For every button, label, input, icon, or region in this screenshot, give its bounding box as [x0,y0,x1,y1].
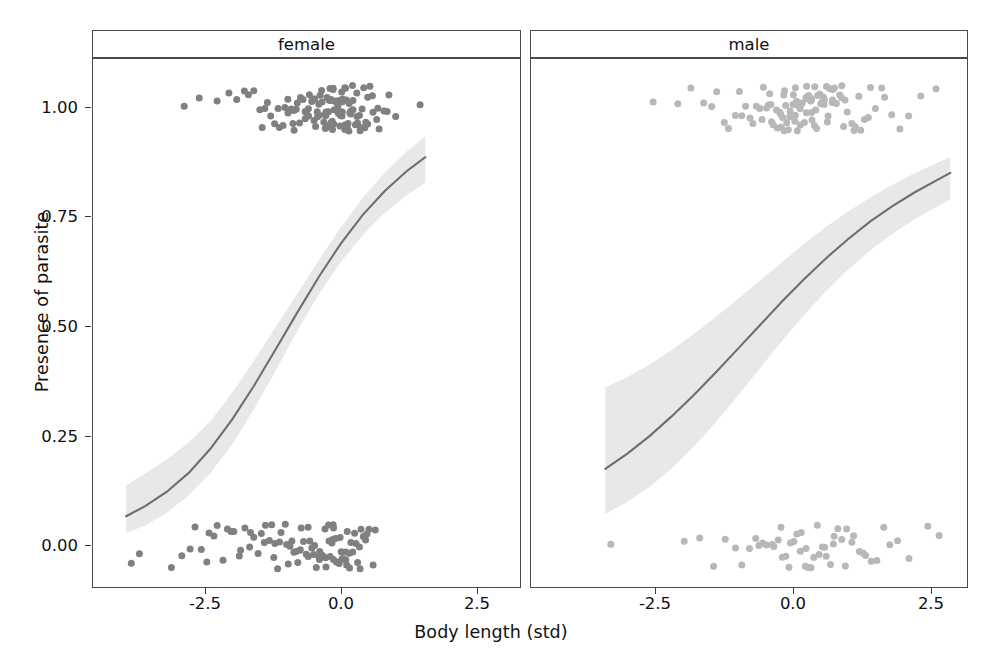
data-point-absent [924,523,931,530]
y-tick-label: 1.00 [16,98,78,117]
facet-panel-female [92,58,521,588]
data-point-present [888,111,895,118]
data-point-present [259,124,266,131]
data-point-absent [798,529,805,536]
data-point-absent [268,521,275,528]
data-point-present [374,105,381,112]
x-tick-label: 0.0 [780,594,806,613]
data-point-present [289,120,296,127]
data-point-present [300,96,307,103]
data-point-absent [778,524,785,531]
data-point-absent [862,552,869,559]
data-point-present [267,113,274,120]
data-point-present [867,84,874,91]
x-tick-label: 0.0 [328,594,354,613]
data-point-present [330,86,337,93]
data-point-absent [278,529,285,536]
data-point-absent [128,560,135,567]
data-point-present [785,126,792,133]
data-point-absent [370,561,377,568]
data-point-absent [827,561,834,568]
data-point-present [780,92,787,99]
data-point-present [812,107,819,114]
x-tick-label: -2.5 [189,594,221,613]
data-point-absent [237,547,244,554]
data-point-present [700,100,707,107]
data-point-absent [357,565,364,572]
data-point-absent [313,564,320,571]
plot-canvas-female [93,59,520,587]
data-point-absent [790,538,797,545]
y-tick-mark [85,326,91,327]
data-point-present [349,82,356,89]
data-point-absent [830,540,837,547]
data-point-absent [362,537,369,544]
data-point-present [742,103,749,110]
data-point-absent [838,536,845,543]
data-point-present [275,105,282,112]
data-point-present [813,125,820,132]
data-point-absent [305,524,312,531]
facet-strip-label: female [278,35,335,54]
data-point-present [808,97,815,104]
data-point-present [825,113,832,120]
data-point-present [360,84,367,91]
data-point-absent [214,522,221,529]
data-point-present [376,125,383,132]
data-point-absent [311,542,318,549]
data-point-absent [814,522,821,529]
data-point-present [214,98,221,105]
data-point-absent [296,547,303,554]
data-point-absent [241,525,248,532]
data-point-absent [831,533,838,540]
data-point-present [708,103,715,110]
data-point-present [284,96,291,103]
data-point-present [392,113,399,120]
data-point-present [881,94,888,101]
facet-strip-female: female [92,30,521,58]
data-point-absent [808,564,815,571]
x-tick-label: 2.5 [918,594,944,613]
data-point-absent [906,555,913,562]
data-point-present [878,84,885,91]
data-point-present [366,83,373,90]
data-point-absent [220,557,227,564]
data-point-absent [821,544,828,551]
data-point-present [821,101,828,108]
data-point-present [339,109,346,116]
data-point-absent [349,548,356,555]
data-point-present [356,112,363,119]
data-point-present [824,119,831,126]
data-point-present [280,122,287,129]
data-point-absent [782,553,789,560]
data-point-present [225,90,232,97]
data-point-present [840,123,847,130]
data-point-absent [330,525,337,532]
data-point-present [687,84,694,91]
data-point-present [353,90,360,97]
data-point-present [905,113,912,120]
data-point-absent [168,564,175,571]
data-point-present [933,85,940,92]
data-point-absent [786,564,793,571]
y-tick-mark [85,107,91,108]
data-point-present [417,101,424,108]
data-point-present [767,101,774,108]
data-point-present [350,106,357,113]
data-point-present [801,119,808,126]
data-point-absent [732,544,739,551]
data-point-absent [848,539,855,546]
data-point-absent [873,557,880,564]
data-point-absent [346,565,353,572]
data-point-present [865,114,872,121]
data-point-absent [354,559,361,566]
data-point-absent [886,541,893,548]
data-point-absent [270,554,277,561]
data-point-present [233,96,240,103]
data-point-present [782,102,789,109]
data-point-absent [607,541,614,548]
data-point-present [833,100,840,107]
data-point-present [305,113,312,120]
facet-strip-male: male [530,30,968,58]
data-point-absent [285,560,292,567]
